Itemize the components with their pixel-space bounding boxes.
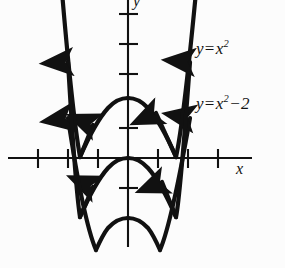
y-axis (119, 0, 138, 247)
y-axis-label: y (133, 0, 140, 10)
curve-y-equals-x-squared-plus-2-left-tail (80, 125, 93, 157)
label-equals: = (204, 94, 216, 113)
label-variable: x (216, 94, 224, 113)
label-exponent: 2 (224, 38, 230, 49)
label-lhs: y (196, 94, 204, 113)
curve-label-y-equals-x-squared-minus-2: y=x2−2 (196, 93, 250, 114)
curve-y-equals-x-squared-minus-2 (128, 218, 160, 250)
label-operator: − (229, 94, 241, 113)
label-constant: 2 (241, 94, 250, 113)
curve-y-equals-x-squared-minus-2-left-branch (96, 218, 128, 250)
x-axis-label: x (236, 160, 243, 178)
parabola-family-figure: y=x2 y=x2−2 x y (0, 0, 285, 268)
label-equals: = (204, 39, 216, 58)
label-lhs: y (196, 39, 204, 58)
curve-label-y-equals-x-squared: y=x2 (196, 38, 229, 59)
graph-canvas (0, 0, 285, 268)
label-variable: x (216, 39, 224, 58)
